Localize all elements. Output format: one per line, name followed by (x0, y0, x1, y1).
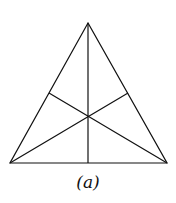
median-from-left-vertex (10, 93, 128, 163)
median-from-right-vertex (49, 93, 167, 163)
figure-caption: (a) (0, 172, 176, 192)
